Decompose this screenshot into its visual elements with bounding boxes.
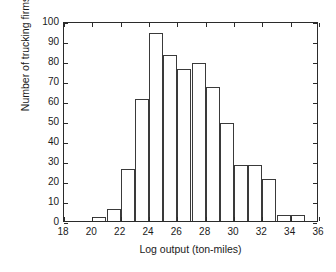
y-tick-label: 30 xyxy=(48,157,59,167)
y-tick-mark xyxy=(64,223,68,224)
x-tick-mark xyxy=(319,217,320,221)
y-tick-label: 100 xyxy=(42,17,59,27)
histogram-bar xyxy=(192,63,206,221)
y-tick-label: 90 xyxy=(48,37,59,47)
y-tick-label: 80 xyxy=(48,57,59,67)
x-tick-mark xyxy=(291,217,292,221)
x-tick-mark-top xyxy=(291,23,292,27)
histogram-bar xyxy=(92,217,106,221)
x-tick-mark-top xyxy=(121,23,122,27)
histogram-bar xyxy=(220,123,234,221)
x-tick-label: 24 xyxy=(142,226,153,237)
x-tick-mark xyxy=(206,217,207,221)
x-axis-tick-labels: 18202224262830323436 xyxy=(63,226,318,240)
histogram-bar xyxy=(149,33,163,221)
y-tick-mark-right xyxy=(313,223,317,224)
x-tick-mark xyxy=(64,217,65,221)
histogram-figure: 0102030405060708090100 18202224262830323… xyxy=(0,0,336,272)
y-tick-label: 10 xyxy=(48,197,59,207)
y-tick-mark xyxy=(64,203,68,204)
histogram-bar xyxy=(277,215,291,221)
y-tick-mark xyxy=(64,43,68,44)
x-tick-label: 26 xyxy=(171,226,182,237)
y-tick-mark-right xyxy=(313,43,317,44)
x-tick-label: 28 xyxy=(199,226,210,237)
y-tick-label: 60 xyxy=(48,97,59,107)
x-tick-label: 34 xyxy=(284,226,295,237)
y-tick-mark-right xyxy=(313,103,317,104)
histogram-bar xyxy=(163,55,177,221)
y-tick-mark-right xyxy=(313,83,317,84)
histogram-bar xyxy=(206,87,220,221)
histogram-bar xyxy=(107,209,121,221)
y-tick-mark-right xyxy=(313,63,317,64)
y-tick-mark xyxy=(64,163,68,164)
y-tick-mark xyxy=(64,63,68,64)
x-tick-label: 20 xyxy=(86,226,97,237)
histogram-bar xyxy=(177,69,191,221)
x-tick-mark xyxy=(92,217,93,221)
histogram-bar xyxy=(262,179,276,221)
y-tick-mark xyxy=(64,183,68,184)
y-tick-label: 70 xyxy=(48,77,59,87)
y-tick-label: 50 xyxy=(48,117,59,127)
x-tick-mark-top xyxy=(319,23,320,27)
x-axis-title: Log output (ton-miles) xyxy=(63,243,318,255)
x-tick-mark-top xyxy=(206,23,207,27)
x-tick-mark-top xyxy=(177,23,178,27)
histogram-bar xyxy=(291,215,305,221)
y-tick-mark-right xyxy=(313,163,317,164)
x-tick-label: 22 xyxy=(114,226,125,237)
y-tick-label: 40 xyxy=(48,137,59,147)
histogram-bar xyxy=(248,165,262,221)
x-tick-mark xyxy=(262,217,263,221)
x-tick-mark-top xyxy=(262,23,263,27)
x-tick-mark-top xyxy=(64,23,65,27)
y-tick-mark xyxy=(64,123,68,124)
x-tick-mark xyxy=(234,217,235,221)
x-tick-label: 32 xyxy=(256,226,267,237)
x-tick-label: 30 xyxy=(227,226,238,237)
x-tick-label: 36 xyxy=(312,226,323,237)
histogram-bar xyxy=(135,99,149,221)
y-tick-mark xyxy=(64,143,68,144)
plot-area xyxy=(63,22,318,222)
y-tick-mark-right xyxy=(313,183,317,184)
y-tick-mark xyxy=(64,83,68,84)
x-tick-mark xyxy=(177,217,178,221)
y-tick-label: 20 xyxy=(48,177,59,187)
y-tick-mark-right xyxy=(313,143,317,144)
x-tick-mark-top xyxy=(234,23,235,27)
y-tick-mark-right xyxy=(313,23,317,24)
x-tick-mark xyxy=(121,217,122,221)
y-axis-title: Number of trucking firms xyxy=(19,0,31,134)
histogram-bar xyxy=(121,169,135,221)
x-tick-label: 18 xyxy=(57,226,68,237)
bars-layer xyxy=(64,23,317,221)
y-tick-mark-right xyxy=(313,123,317,124)
x-tick-mark-top xyxy=(92,23,93,27)
histogram-bar xyxy=(234,165,248,221)
y-axis-tick-labels: 0102030405060708090100 xyxy=(34,22,59,222)
x-tick-mark-top xyxy=(149,23,150,27)
y-tick-mark xyxy=(64,103,68,104)
x-tick-mark xyxy=(149,217,150,221)
y-tick-mark-right xyxy=(313,203,317,204)
